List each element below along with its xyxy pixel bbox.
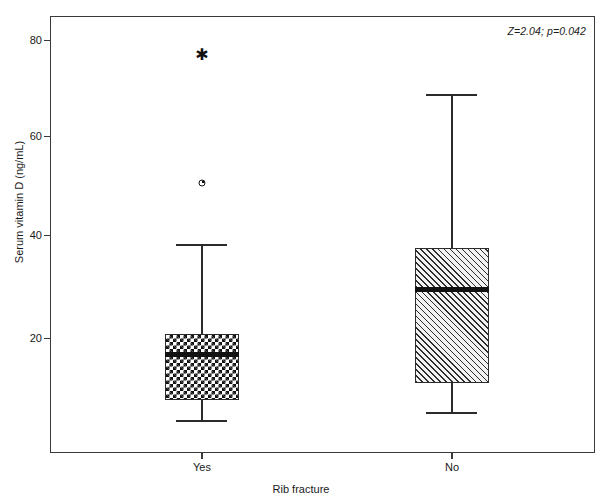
- y-tick-label-20: 20: [30, 332, 42, 344]
- outlier-circle-yes-54: [199, 180, 206, 187]
- x-tick-mark-no: [451, 453, 452, 459]
- upper-whisker-cap-yes: [176, 244, 227, 246]
- lower-whisker-line-no: [451, 383, 453, 413]
- lower-whisker-cap-yes: [176, 420, 227, 422]
- upper-whisker-line-yes: [201, 245, 203, 334]
- lower-whisker-line-yes: [201, 400, 203, 421]
- y-tick-label-40: 40: [30, 229, 42, 241]
- upper-whisker-line-no: [451, 95, 453, 248]
- upper-whisker-cap-no: [426, 94, 477, 96]
- x-tick-label-yes: Yes: [193, 461, 211, 473]
- y-axis-title: Serum vitamin D (ng/mL): [13, 97, 25, 307]
- boxplot-figure: 80 60 40 20 Serum vitamin D (ng/mL) Z=2.…: [0, 0, 602, 502]
- outlier-star-yes-77: ✱: [195, 47, 208, 63]
- x-tick-label-no: No: [445, 461, 459, 473]
- box-rect-no: [415, 248, 489, 383]
- x-tick-mark-yes: [201, 453, 202, 459]
- x-axis-title: Rib fracture: [0, 483, 602, 495]
- y-tick-label-80: 80: [30, 34, 42, 46]
- box-rect-yes: [165, 334, 239, 400]
- median-line-no: [415, 287, 489, 292]
- median-line-yes: [165, 352, 239, 357]
- statistical-annotation: Z=2.04; p=0.042: [507, 25, 586, 37]
- plot-area: Z=2.04; p=0.042: [50, 16, 595, 453]
- y-tick-label-60: 60: [30, 130, 42, 142]
- lower-whisker-cap-no: [426, 412, 477, 414]
